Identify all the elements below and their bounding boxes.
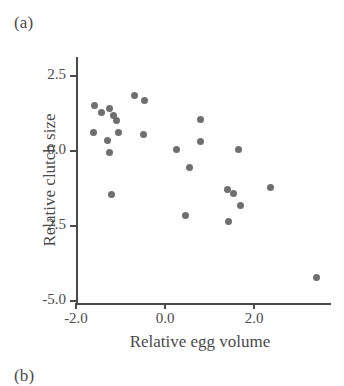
data-point [131, 92, 138, 99]
x-axis-title: Relative egg volume [60, 332, 340, 352]
y-tick-mark [70, 150, 76, 152]
data-point [90, 129, 97, 136]
data-point [230, 190, 237, 197]
x-tick-label: 0.0 [135, 310, 195, 327]
data-point [91, 102, 98, 109]
x-tick-mark [253, 303, 255, 309]
x-tick-mark [164, 303, 166, 309]
x-tick-label: 2.0 [224, 310, 284, 327]
data-point [173, 146, 180, 153]
y-tick-mark [70, 75, 76, 77]
y-axis-line [76, 57, 78, 304]
next-panel-label: (b) [14, 366, 34, 386]
data-point [106, 105, 113, 112]
data-point [140, 131, 147, 138]
x-tick-label: -2.0 [46, 310, 106, 327]
data-point [197, 138, 204, 145]
data-point [115, 129, 122, 136]
y-axis-title: Relative clutch size [40, 50, 60, 310]
data-point [104, 137, 111, 144]
data-point [108, 191, 115, 198]
y-tick-mark [70, 225, 76, 227]
data-point [113, 117, 120, 124]
data-point [141, 97, 148, 104]
data-point [313, 274, 320, 281]
y-tick-mark [70, 300, 76, 302]
data-point [98, 109, 105, 116]
data-point [186, 164, 193, 171]
x-axis-line [76, 303, 331, 305]
data-point [182, 212, 189, 219]
x-tick-mark [75, 303, 77, 309]
data-point [267, 184, 274, 191]
data-point [225, 218, 232, 225]
data-point [106, 149, 113, 156]
data-point [197, 116, 204, 123]
data-point [237, 202, 244, 209]
data-point [235, 146, 242, 153]
